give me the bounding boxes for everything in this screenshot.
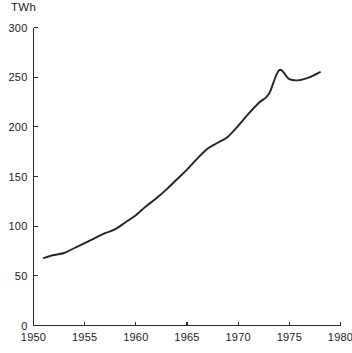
- x-axis-tick-label: 1955: [72, 331, 97, 343]
- y-axis-ticks: [34, 28, 38, 326]
- axes-group: [34, 28, 341, 326]
- y-axis-tick-label: 100: [9, 220, 28, 232]
- y-axis-tick-label: 150: [9, 171, 28, 183]
- series-group: [44, 70, 320, 258]
- x-axis-tick-label: 1975: [277, 331, 302, 343]
- y-axis-tick-label: 250: [9, 71, 28, 83]
- x-axis-tick-label: 1960: [123, 331, 148, 343]
- y-axis-tick-label: 300: [9, 22, 28, 34]
- x-axis-tick-label: 1965: [174, 331, 199, 343]
- x-axis-tick-labels: 1950195519601965197019751980: [21, 331, 352, 343]
- chart-container: 050100150200250300 195019551960196519701…: [0, 0, 352, 353]
- x-axis-tick-label: 1950: [21, 331, 46, 343]
- y-axis-tick-labels: 050100150200250300: [9, 22, 28, 332]
- y-axis-tick-label: 200: [9, 121, 28, 133]
- y-axis-unit-label: TWh: [11, 1, 36, 13]
- data-series-line: [44, 70, 320, 258]
- line-chart: 050100150200250300 195019551960196519701…: [0, 0, 352, 353]
- x-axis-tick-label: 1970: [226, 331, 251, 343]
- chart-axes: [34, 28, 341, 326]
- tick-labels-group: 050100150200250300 195019551960196519701…: [9, 22, 352, 343]
- x-axis-tick-label: 1980: [328, 331, 352, 343]
- x-axis-ticks: [34, 322, 341, 326]
- y-axis-tick-label: 50: [15, 270, 28, 282]
